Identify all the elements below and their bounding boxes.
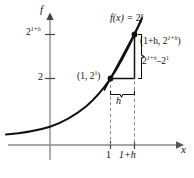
y-tick-label-upper: 21+h: [26, 28, 41, 38]
y-tick-label-lower: 2: [38, 72, 43, 82]
function-label: f(x) = 2x: [110, 13, 143, 23]
x-tick-label-1: 1: [106, 150, 111, 160]
point-label-right-close: ): [177, 36, 180, 46]
point-label-left-open: (1, 2: [77, 71, 94, 81]
rise-annotation: 21+h–21: [142, 57, 169, 67]
point-label-left-close: ): [97, 71, 100, 81]
x-axis-label: x: [181, 144, 186, 155]
rise-first-exponent: 1+h: [147, 55, 157, 61]
point-label-right-exponent: 1+h: [168, 35, 178, 41]
run-bracket: [111, 91, 135, 97]
point-label-right-open: (1+h, 2: [140, 36, 168, 46]
rise-second-exponent: 1: [166, 55, 169, 61]
point-dot-left: [108, 76, 114, 82]
run-annotation: h: [116, 96, 121, 106]
figure-container: f x f(x) = 2x 21+h 2 (1, 21) (1+h, 21+h)…: [0, 0, 194, 178]
point-label-right: (1+h, 21+h): [140, 37, 181, 47]
y-axis-label: f: [40, 4, 43, 15]
function-label-prefix: f(x) =: [110, 12, 136, 23]
x-tick-label-1-plus-h: 1+h: [119, 150, 136, 160]
point-label-left: (1, 21): [77, 72, 101, 82]
function-label-exponent: x: [141, 11, 144, 18]
y-tick-upper-exponent: 1+h: [31, 26, 41, 32]
point-dot-right: [132, 32, 138, 38]
dashed-drop-lines: [111, 35, 135, 145]
x-axis: [8, 141, 184, 149]
